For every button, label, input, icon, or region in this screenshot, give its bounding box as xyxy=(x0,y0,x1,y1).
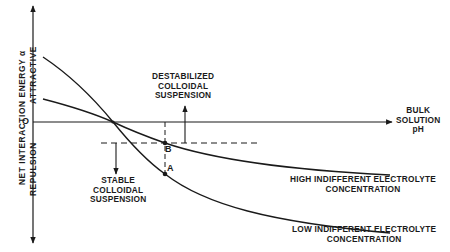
destabilized-label: DESTABILIZED COLLOIDAL SUSPENSION xyxy=(152,72,214,101)
high-electrolyte-label: HIGH INDIFFERENT ELECTROLYTE CONCENTRATI… xyxy=(290,175,436,194)
intersection-marker xyxy=(111,120,114,123)
high-electrolyte-curve xyxy=(43,99,390,175)
point-a-label: A xyxy=(167,164,174,174)
point-b-label: B xyxy=(165,145,172,155)
high-electrolyte-line-2: CONCENTRATION xyxy=(290,185,436,195)
low-electrolyte-label: LOW INDIFFERENT ELECTROLYTE CONCENTRATIO… xyxy=(292,225,436,244)
stable-label: STABLE COLLOIDAL SUSPENSION xyxy=(90,176,146,205)
destabilized-line-3: SUSPENSION xyxy=(152,91,214,101)
y-axis-attractive-label: ATTRACTIVE xyxy=(28,46,38,104)
low-electrolyte-curve xyxy=(43,57,390,233)
x-axis-label: BULK SOLUTION pH xyxy=(396,106,440,135)
low-electrolyte-line-2: CONCENTRATION xyxy=(292,235,436,245)
y-axis-repulsion-label: REPULSION xyxy=(28,142,38,196)
interaction-energy-diagram xyxy=(0,0,450,252)
zero-label: O xyxy=(22,117,29,127)
stable-line-3: SUSPENSION xyxy=(90,195,146,205)
x-axis-label-line-3: pH xyxy=(396,125,440,135)
